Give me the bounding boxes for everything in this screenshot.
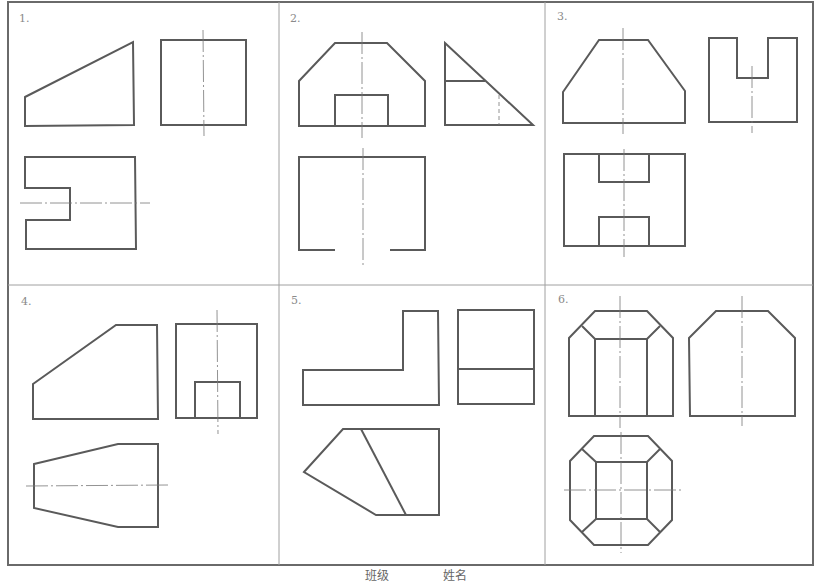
p5-side-view [458,310,534,404]
problem-number-4: 4. [21,295,32,308]
p2-top-view-left [299,157,425,250]
problem-4 [26,310,257,527]
p6-top-connector-tl [582,449,596,462]
p1-front-view [25,42,134,126]
p2-side-view [445,43,533,125]
p6-front-view [569,311,673,416]
p6-top-inner-square [596,462,647,519]
class-label: 班级 [365,566,389,582]
p5-top-diagonal [361,429,406,515]
p3-front-view [563,40,685,123]
outer-frame [8,2,813,565]
p2-front-slot [335,95,388,126]
p6-front-inner [582,326,660,339]
name-label: 姓名 [443,566,467,582]
p4-side-view [176,324,257,418]
p6-top-connector-br [647,519,660,532]
p4-top-centerline [26,485,168,486]
problem-2 [299,32,533,265]
p6-top-connector-bl [582,519,596,532]
p4-side-centerline [217,310,218,434]
drawing-sheet: 1. 2. 3. 4. 5. 6. [0,0,819,582]
problem-number-2: 2. [290,12,301,25]
p4-front-view [33,325,158,419]
problem-number-1: 1. [19,12,30,25]
p5-top-view [304,429,439,515]
problem-5 [303,310,534,515]
p1-side-centerline [203,30,204,136]
p3-side-view [709,38,797,122]
p3-top-view [564,154,685,246]
problem-number-6: 6. [558,293,569,306]
problem-number-3: 3. [557,10,568,23]
problem-3 [563,28,797,257]
problem-1 [20,30,246,249]
p5-front-view [303,311,439,405]
p6-top-connector-tr [647,449,660,462]
problem-number-5: 5. [291,294,302,307]
problem-6 [564,296,795,553]
p1-side-view [161,40,246,125]
